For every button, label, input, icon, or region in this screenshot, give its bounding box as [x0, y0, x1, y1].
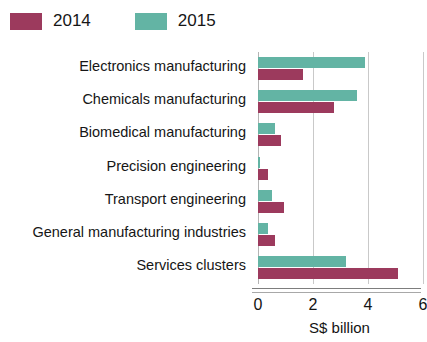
category-label: Services clusters [0, 257, 246, 273]
bar-2015 [258, 223, 268, 234]
category-label: General manufacturing industries [0, 224, 246, 240]
category-label: Biomedical manufacturing [0, 124, 246, 140]
bar-2015 [258, 90, 357, 101]
gridline-2 [313, 52, 314, 284]
chart-legend: 2014 2015 [10, 9, 216, 33]
bars-region [258, 52, 421, 284]
plot-area: Electronics manufacturing Chemicals manu… [0, 52, 421, 290]
x-axis-line-secondary [252, 292, 421, 293]
bar-2014 [258, 268, 398, 279]
x-axis-line [252, 288, 421, 289]
category-label: Transport engineering [0, 191, 246, 207]
bar-2014 [258, 102, 334, 113]
x-axis-title: S$ billion [258, 319, 421, 336]
bar-2014 [258, 202, 284, 213]
legend-swatch-2015 [135, 13, 167, 30]
bar-2015 [258, 57, 365, 68]
bar-2014 [258, 235, 275, 246]
legend-item-2014: 2014 [10, 11, 91, 31]
category-label: Chemicals manufacturing [0, 91, 246, 107]
bar-2014 [258, 69, 303, 80]
legend-label-2015: 2015 [178, 11, 216, 31]
legend-swatch-2014 [10, 13, 42, 30]
tick-label: 4 [364, 296, 373, 314]
bar-2015 [258, 123, 275, 134]
bar-2015 [258, 157, 260, 168]
tick-label: 2 [309, 296, 318, 314]
category-label: Electronics manufacturing [0, 58, 246, 74]
bar-2015 [258, 190, 272, 201]
tick-label: 0 [254, 296, 263, 314]
bar-2014 [258, 169, 268, 180]
category-axis-labels: Electronics manufacturing Chemicals manu… [0, 52, 252, 284]
legend-item-2015: 2015 [135, 11, 216, 31]
bar-2015 [258, 256, 346, 267]
legend-label-2014: 2014 [53, 11, 91, 31]
tick-label: 6 [419, 296, 427, 314]
category-label: Precision engineering [0, 158, 246, 174]
gridline-6 [423, 52, 424, 284]
gridline-4 [368, 52, 369, 284]
x-axis-tick-labels: 0 2 4 6 [0, 296, 421, 318]
bar-2014 [258, 135, 281, 146]
